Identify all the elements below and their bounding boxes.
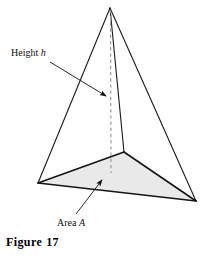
area-label-text: Area: [57, 217, 76, 228]
height-label: Height h: [11, 47, 46, 58]
base-triangle-area: [38, 152, 196, 201]
area-label: Area A: [57, 217, 85, 228]
pyramid-diagram: [0, 0, 214, 256]
edge-apex-to-base-back: [110, 8, 124, 152]
edge-apex-to-base-left: [38, 8, 110, 183]
figure-container: Height h Area A Figure17: [0, 0, 214, 256]
height-label-symbol: h: [41, 47, 46, 58]
height-dashed-line: [111, 10, 112, 173]
area-label-symbol: A: [79, 217, 85, 228]
height-leader-arrow: [50, 62, 106, 96]
figure-caption-number: 17: [46, 235, 59, 249]
figure-caption-word: Figure: [6, 235, 42, 249]
figure-caption: Figure17: [6, 235, 59, 250]
height-label-text: Height: [11, 47, 38, 58]
